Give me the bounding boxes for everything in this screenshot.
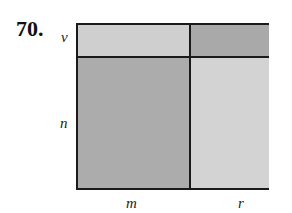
col-label-r: r (238, 196, 244, 211)
row-label-v: v (61, 30, 68, 45)
horizontal-divider (78, 56, 267, 58)
region-top-left (78, 25, 189, 56)
problem-number: 70. (16, 18, 44, 40)
region-bottom-left (78, 58, 189, 188)
region-bottom-right (191, 58, 269, 188)
col-label-m: m (126, 196, 137, 211)
row-label-n: n (60, 116, 68, 131)
vertical-divider (189, 25, 191, 188)
area-model-rectangle (76, 23, 269, 190)
region-top-right (191, 25, 269, 56)
